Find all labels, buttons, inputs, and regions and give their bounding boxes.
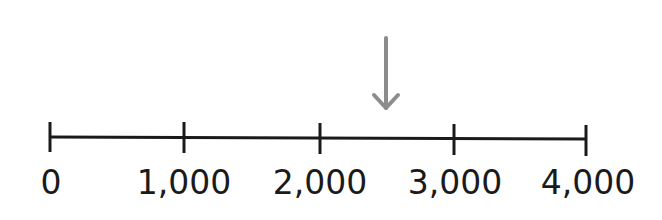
number-line-axis xyxy=(50,137,586,139)
tick-label-0: 0 xyxy=(41,163,62,202)
tick-label-1000: 1,000 xyxy=(137,163,231,202)
tick-label-4000: 4,000 xyxy=(541,163,635,202)
tick-label-2000: 2,000 xyxy=(273,163,367,202)
number-line-diagram: 0 1,000 2,000 3,000 4,000 xyxy=(0,0,662,220)
down-arrow-icon xyxy=(374,38,398,108)
tick-label-3000: 3,000 xyxy=(408,163,502,202)
